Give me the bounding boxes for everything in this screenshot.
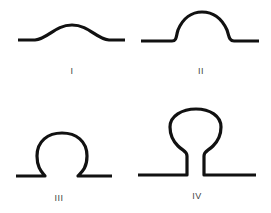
panel-iv-label: IV — [192, 191, 202, 201]
panel-i-curve — [18, 25, 125, 40]
panel-ii-curve — [141, 12, 259, 41]
panel-iii-curve — [16, 133, 112, 176]
panel-i-label: I — [70, 66, 73, 76]
membrane-curvature-diagram — [0, 0, 271, 213]
panel-ii-label: II — [198, 66, 204, 76]
panel-iii-label: III — [54, 193, 63, 203]
panel-iv-curve — [138, 109, 256, 175]
